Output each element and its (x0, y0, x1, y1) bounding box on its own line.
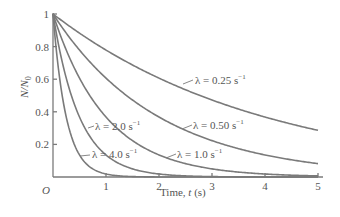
curve-label-2.0: λ = 2.0 s−1 (88, 119, 141, 132)
x-tick-label: 1 (103, 180, 109, 192)
svg-text:λ = 4.0 s−1: λ = 4.0 s−1 (92, 147, 138, 160)
y-tick-label: 0.6 (35, 73, 49, 85)
curve-label-1.0: λ = 1.0 s−1 (166, 147, 223, 160)
curve-label-4.0: λ = 4.0 s−1 (80, 147, 138, 160)
y-tick-label: 0.2 (35, 138, 49, 150)
origin-label: O (42, 184, 50, 196)
curve-label-0.50: λ = 0.50 s−1 (182, 118, 244, 131)
x-tick-label: 5 (315, 180, 321, 192)
y-axis-title: N/N0 (18, 76, 33, 99)
y-tick-label: 0.8 (35, 41, 49, 53)
decay-chart: 12345 0.20.40.60.81 O Time, t (s) N/N0 λ… (0, 0, 340, 217)
x-tick-label: 4 (262, 180, 268, 192)
svg-text:λ = 0.25 s−1: λ = 0.25 s−1 (195, 73, 246, 86)
svg-text:λ = 1.0 s−1: λ = 1.0 s−1 (177, 147, 223, 160)
y-tick-label: 0.4 (35, 106, 49, 118)
x-axis-title: Time, t (s) (160, 186, 206, 199)
svg-text:λ = 2.0 s−1: λ = 2.0 s−1 (95, 119, 141, 132)
y-tick-label: 1 (44, 8, 50, 20)
curve-lambda-0.25 (53, 14, 318, 130)
curve-label-0.25: λ = 0.25 s−1 (183, 73, 246, 86)
svg-text:λ = 0.50 s−1: λ = 0.50 s−1 (193, 118, 244, 131)
x-tick-label: 3 (209, 180, 215, 192)
